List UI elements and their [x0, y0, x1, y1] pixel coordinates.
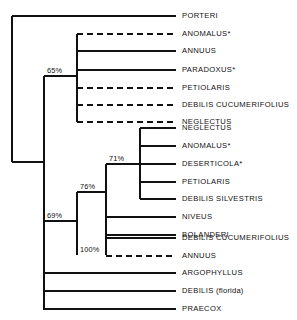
- tip-taxon-name: ANNUUS: [182, 46, 216, 55]
- tip-taxon-name: PETIOLARIS: [182, 177, 230, 186]
- support-value-n69: 69%: [47, 212, 62, 219]
- tip-taxon-name: NIVEUS: [182, 212, 212, 221]
- branch-layer: [12, 16, 176, 310]
- tip-label-t8: NEGLECTUS: [182, 124, 232, 132]
- tip-label-t4: PARADOXUS*: [182, 66, 236, 74]
- tip-label-t12: DEBILIS SILVESTRIS: [182, 195, 263, 203]
- tip-label-t5: PETIOLARIS: [182, 84, 230, 92]
- tip-taxon-qualifier: (florida): [216, 286, 244, 295]
- tip-label-t17: ARGOPHYLLUS: [182, 269, 243, 277]
- tip-taxon-name: ANNUUS: [182, 251, 216, 260]
- support-value-n71: 71%: [109, 155, 124, 162]
- phylogenetic-tree-figure: 65%71%76%69%100% PORTERIANOMALUS*ANNUUSP…: [0, 0, 297, 320]
- tip-label-t3: ANNUUS: [182, 47, 216, 55]
- support-value-n65: 65%: [47, 67, 62, 74]
- tip-label-t13: NIVEUS: [182, 213, 212, 221]
- tip-taxon-name: PORTERI: [182, 11, 218, 20]
- tip-taxon-name: ANOMALUS*: [182, 29, 231, 38]
- tip-taxon-name: DESERTICOLA*: [182, 159, 243, 168]
- support-value-n76: 76%: [80, 183, 95, 190]
- tip-label-t10: DESERTICOLA*: [182, 160, 243, 168]
- tip-taxon-name: DEBILIS CUCUMERIFOLIUS: [182, 100, 289, 109]
- tip-label-t9: ANOMALUS*: [182, 142, 231, 150]
- support-value-n100: 100%: [80, 246, 99, 253]
- tip-label-t19: PRAECOX: [182, 305, 222, 313]
- tip-taxon-name: ARGOPHYLLUS: [182, 268, 243, 277]
- tip-taxon-name: DEBILIS CUCUMERIFOLIUS: [182, 233, 289, 242]
- tip-label-t6: DEBILIS CUCUMERIFOLIUS: [182, 101, 289, 109]
- tree-branches: [0, 0, 297, 320]
- tip-label-t16: ANNUUS: [182, 252, 216, 260]
- tip-taxon-name: PARADOXUS*: [182, 65, 236, 74]
- tip-label-t2: ANOMALUS*: [182, 30, 231, 38]
- tip-taxon-name: ANOMALUS*: [182, 141, 231, 150]
- tip-label-t1: PORTERI: [182, 12, 218, 20]
- tip-taxon-name: PETIOLARIS: [182, 83, 230, 92]
- tip-label-t15: DEBILIS CUCUMERIFOLIUS: [182, 234, 289, 242]
- tip-taxon-name: PRAECOX: [182, 304, 222, 313]
- tip-label-t18: DEBILIS (florida): [182, 287, 244, 295]
- tip-taxon-name: NEGLECTUS: [182, 123, 232, 132]
- tip-label-t11: PETIOLARIS: [182, 178, 230, 186]
- tip-taxon-name: DEBILIS: [182, 286, 214, 295]
- tip-taxon-name: DEBILIS SILVESTRIS: [182, 194, 263, 203]
